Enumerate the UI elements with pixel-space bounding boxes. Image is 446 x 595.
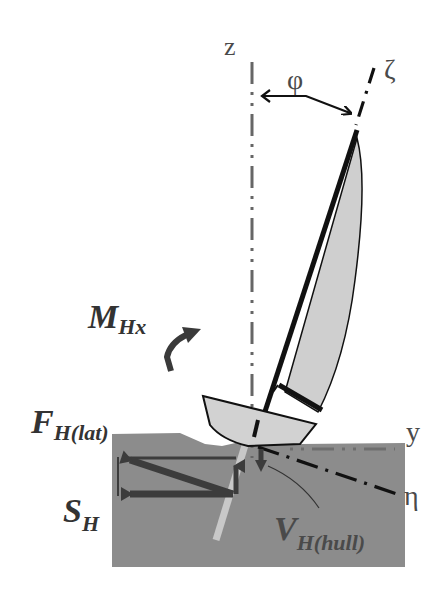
side-force-subscript: H <box>82 511 99 536</box>
hull-vertical-force-subscript: H(hull) <box>297 530 365 555</box>
lateral-force-symbol: F <box>31 403 54 440</box>
moment-symbol: M <box>88 298 118 335</box>
y-axis-label: y <box>406 418 420 446</box>
sail <box>285 138 362 412</box>
lateral-force-subscript: H(lat) <box>54 420 109 445</box>
phi-arc-arrow <box>262 96 350 113</box>
moment-label: MHx <box>88 300 146 334</box>
sailboat-force-diagram: z φ ζ y η MHx FH(lat) SH VH(hull) <box>0 0 446 595</box>
zeta-label: ζ <box>384 56 396 84</box>
hull-vertical-force-symbol: V <box>274 510 297 547</box>
hull-vertical-force-label: VH(hull) <box>274 512 365 546</box>
lateral-force-label: FH(lat) <box>31 405 109 439</box>
z-axis-label: z <box>224 34 236 60</box>
side-force-symbol: S <box>63 492 82 529</box>
moment-arrow <box>167 335 186 371</box>
side-force-label: SH <box>63 494 99 528</box>
moment-subscript: Hx <box>118 314 146 339</box>
phi-label: φ <box>287 66 303 94</box>
zeta-axis-line <box>356 68 374 125</box>
eta-label: η <box>404 482 419 510</box>
